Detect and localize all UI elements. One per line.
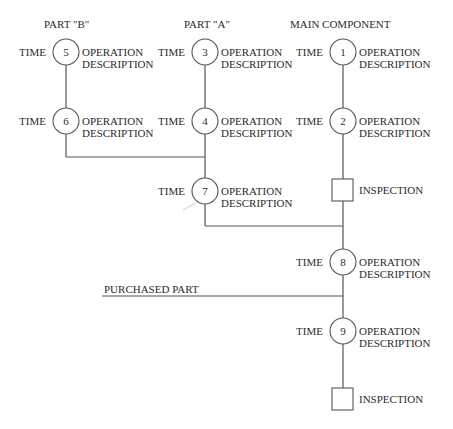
operation-description-line2: DESCRIPTION — [359, 268, 431, 280]
operation-description-line1: OPERATION — [221, 46, 282, 58]
operation-number: 8 — [340, 256, 346, 268]
time-label: TIME — [296, 115, 323, 127]
inspection-1: INSPECTION — [332, 179, 423, 201]
operation-2: TIME 2 OPERATION DESCRIPTION — [296, 108, 431, 139]
inspection-label: INSPECTION — [359, 184, 423, 196]
inspection-2: INSPECTION — [332, 388, 423, 410]
operation-description-line1: OPERATION — [221, 115, 282, 127]
header-part-a: PART "A" — [184, 18, 230, 30]
operation-4: TIME 4 OPERATION DESCRIPTION — [158, 108, 293, 139]
operation-3: TIME 3 OPERATION DESCRIPTION — [158, 39, 293, 70]
operation-7: TIME 7 OPERATION DESCRIPTION — [158, 178, 293, 209]
operation-description-line2: DESCRIPTION — [221, 197, 293, 209]
inspection-label: INSPECTION — [359, 393, 423, 405]
header-part-b: PART "B" — [44, 18, 89, 30]
operation-number: 7 — [202, 185, 208, 197]
operation-number: 3 — [202, 46, 208, 58]
operation-description-line2: DESCRIPTION — [221, 127, 293, 139]
operation-description-line2: DESCRIPTION — [359, 127, 431, 139]
inspection-square — [332, 388, 353, 410]
time-label: TIME — [158, 185, 185, 197]
operation-number: 2 — [340, 115, 346, 127]
operation-number: 6 — [63, 115, 69, 127]
time-label: TIME — [19, 115, 46, 127]
operation-number: 5 — [63, 46, 69, 58]
time-label: TIME — [296, 256, 323, 268]
purchased-part-label: PURCHASED PART — [104, 283, 199, 295]
operation-process-chart: PART "B" PART "A" MAIN COMPONENT TIME 5 … — [0, 0, 453, 429]
operation-6: TIME 6 OPERATION DESCRIPTION — [19, 108, 154, 139]
time-label: TIME — [19, 46, 46, 58]
operation-description-line1: OPERATION — [359, 46, 420, 58]
inspection-square — [332, 179, 353, 201]
operation-description-line2: DESCRIPTION — [221, 58, 293, 70]
time-label: TIME — [296, 46, 323, 58]
operation-9: TIME 9 OPERATION DESCRIPTION — [296, 318, 431, 349]
time-label: TIME — [296, 325, 323, 337]
header-main-component: MAIN COMPONENT — [290, 18, 391, 30]
operation-description-line1: OPERATION — [359, 115, 420, 127]
operation-description-line1: OPERATION — [359, 256, 420, 268]
operation-description-line1: OPERATION — [221, 185, 282, 197]
operation-5: TIME 5 OPERATION DESCRIPTION — [19, 39, 154, 70]
operation-description-line2: DESCRIPTION — [359, 337, 431, 349]
operation-1: TIME 1 OPERATION DESCRIPTION — [296, 39, 431, 70]
scan-smudge — [183, 203, 196, 210]
time-label: TIME — [158, 115, 185, 127]
operation-description-line2: DESCRIPTION — [82, 58, 154, 70]
operation-number: 9 — [340, 325, 346, 337]
operation-8: TIME 8 OPERATION DESCRIPTION — [296, 249, 431, 280]
operation-number: 1 — [340, 46, 346, 58]
operation-description-line2: DESCRIPTION — [359, 58, 431, 70]
operation-description-line1: OPERATION — [82, 46, 143, 58]
operation-description-line1: OPERATION — [82, 115, 143, 127]
time-label: TIME — [158, 46, 185, 58]
operation-description-line2: DESCRIPTION — [82, 127, 154, 139]
operation-number: 4 — [202, 115, 208, 127]
operation-description-line1: OPERATION — [359, 325, 420, 337]
